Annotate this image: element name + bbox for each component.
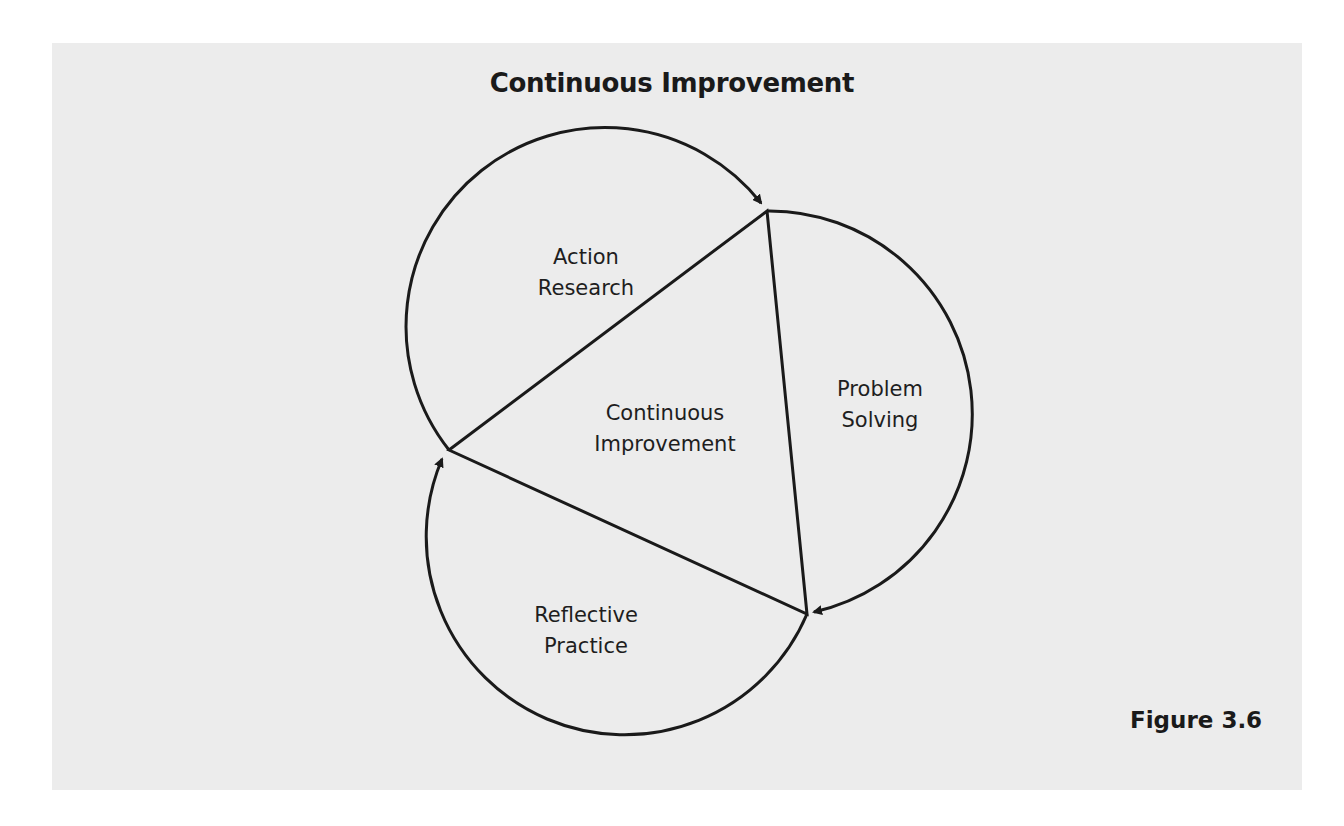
problem-solving-label: Problem Solving: [810, 374, 950, 436]
action-research-label: Action Research: [516, 242, 656, 304]
reflective-practice-label: Reflective Practice: [511, 600, 661, 662]
figure-caption: Figure 3.6: [1130, 707, 1262, 733]
reflective-practice-arc-arrow: [426, 459, 807, 735]
center-label: Continuous Improvement: [580, 398, 750, 460]
